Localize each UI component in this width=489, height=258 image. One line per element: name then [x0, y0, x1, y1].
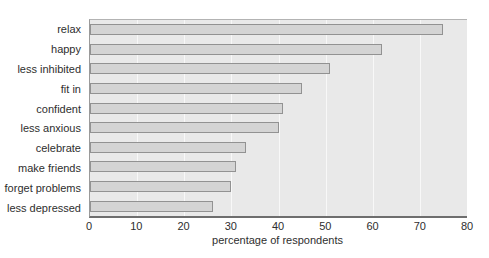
x-axis-tick-label: 60 [366, 220, 378, 233]
y-axis-label: less anxious [0, 119, 85, 139]
x-axis-tick-label: 70 [414, 220, 426, 233]
y-axis-label: happy [0, 39, 85, 59]
bar-row [90, 157, 467, 177]
x-axis-tick-labels: 01020304050607080 [89, 220, 467, 233]
bar-row [90, 98, 467, 118]
bar-row [90, 118, 467, 138]
y-axis-label: celebrate [0, 138, 85, 158]
y-axis-label: make friends [0, 158, 85, 178]
y-axis-label: relax [0, 19, 85, 39]
x-axis-tick-label: 0 [86, 220, 92, 233]
y-axis-label: confident [0, 99, 85, 119]
bar [90, 44, 382, 55]
bar [90, 142, 246, 153]
bar-row [90, 79, 467, 99]
bar [90, 103, 283, 114]
bar-rows [90, 20, 467, 216]
y-axis-label: less inhibited [0, 59, 85, 79]
bar [90, 201, 213, 212]
bar [90, 181, 231, 192]
bar-chart-figure: relaxhappyless inhibitedfit inconfidentl… [0, 0, 489, 258]
y-axis-label: fit in [0, 79, 85, 99]
bar-row [90, 59, 467, 79]
x-axis-tick-label: 80 [461, 220, 473, 233]
x-axis-title: percentage of respondents [89, 234, 466, 246]
bar [90, 24, 443, 35]
bar-row [90, 40, 467, 60]
bar-row [90, 177, 467, 197]
x-axis-tick-label: 40 [272, 220, 284, 233]
x-axis-tick-label: 50 [319, 220, 331, 233]
y-axis-labels: relaxhappyless inhibitedfit inconfidentl… [0, 19, 85, 218]
x-axis-tick-label: 10 [130, 220, 142, 233]
bar [90, 63, 330, 74]
plot-area [89, 19, 467, 218]
x-axis-tick-label: 20 [177, 220, 189, 233]
bar-row [90, 138, 467, 158]
y-axis-label: forget problems [0, 178, 85, 198]
bar [90, 122, 279, 133]
bar [90, 161, 236, 172]
x-axis-tick-label: 30 [225, 220, 237, 233]
bar [90, 83, 302, 94]
bar-row [90, 196, 467, 216]
bar-row [90, 20, 467, 40]
y-axis-label: less depressed [0, 198, 85, 218]
